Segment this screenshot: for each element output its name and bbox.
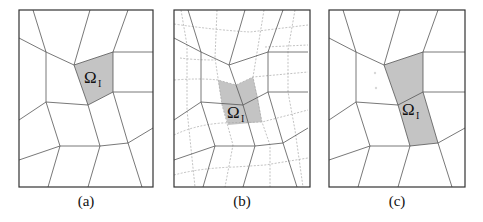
- coarse-mesh: [19, 10, 153, 187]
- mesh-figure: Ω I: [0, 0, 483, 222]
- region-label: Ω: [84, 68, 97, 87]
- ghost-marks: [374, 72, 377, 89]
- region-subscript: I: [98, 78, 101, 89]
- coarse-mesh: [174, 10, 308, 187]
- caption-c: (c): [367, 193, 427, 210]
- panel-b: Ω I: [174, 10, 310, 187]
- region-subscript: I: [416, 110, 419, 121]
- shaded-merged-element: [384, 52, 438, 146]
- region-label: Ω: [402, 100, 415, 119]
- caption-a: (a): [56, 193, 116, 210]
- region-label: Ω: [227, 103, 240, 122]
- panel-a: Ω I: [19, 10, 153, 187]
- shaded-refined-region: [218, 77, 262, 125]
- panel-c: Ω I: [329, 10, 465, 187]
- caption-b: (b): [212, 193, 272, 210]
- region-subscript: I: [241, 113, 244, 124]
